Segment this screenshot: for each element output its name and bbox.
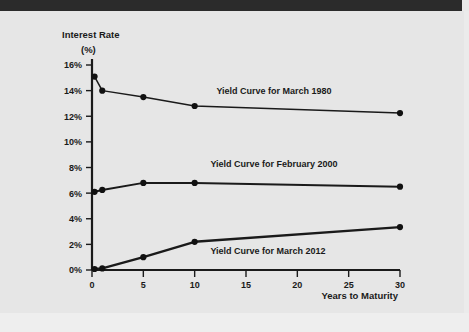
x-axis-tick-labels: 051015202530 — [89, 280, 405, 290]
y-tick-label: 16% — [64, 60, 82, 70]
x-tick-label: 5 — [141, 280, 146, 290]
y-tick-label: 0% — [69, 265, 82, 275]
y-tick-label: 8% — [69, 163, 82, 173]
top-decorative-bar — [0, 0, 462, 11]
series-annotations: Yield Curve for March 1980Yield Curve fo… — [210, 86, 337, 256]
y-tick-label: 14% — [64, 86, 82, 96]
series-line — [95, 183, 400, 192]
y-tick-label: 2% — [69, 240, 82, 250]
yield-curve-chart: Interest Rate (%) 0%2%4%6%8%10%12%14%16%… — [0, 11, 464, 313]
data-point-marker — [91, 73, 97, 79]
x-tick-label: 10 — [190, 280, 200, 290]
data-point-marker — [140, 180, 146, 186]
y-tick-label: 12% — [64, 112, 82, 122]
series-annotation-label: Yield Curve for March 1980 — [216, 86, 331, 96]
data-point-marker — [397, 110, 403, 116]
data-point-marker — [91, 266, 97, 272]
y-axis-title-line1: Interest Rate — [62, 29, 120, 40]
plot-area: Interest Rate (%) 0%2%4%6%8%10%12%14%16%… — [0, 11, 464, 313]
x-tick-label: 15 — [241, 280, 251, 290]
chart-figure: Interest Rate (%) 0%2%4%6%8%10%12%14%16%… — [0, 0, 469, 332]
data-point-marker — [397, 224, 403, 230]
data-point-marker — [140, 254, 146, 260]
x-tick-label: 20 — [292, 280, 302, 290]
series-annotation-label: Yield Curve for February 2000 — [210, 159, 337, 169]
right-margin-strip — [464, 11, 469, 313]
x-axis-title: Years to Maturity — [321, 290, 398, 301]
series-markers — [91, 73, 403, 272]
top-bar-tail — [462, 0, 469, 11]
data-point-marker — [192, 103, 198, 109]
bottom-margin-strip — [0, 313, 469, 332]
y-axis-tick-labels: 0%2%4%6%8%10%12%14%16% — [64, 60, 82, 275]
x-tick-label: 30 — [395, 280, 405, 290]
data-point-marker — [99, 265, 105, 271]
data-point-marker — [397, 184, 403, 190]
data-point-marker — [192, 239, 198, 245]
y-tick-label: 10% — [64, 137, 82, 147]
y-tick-label: 4% — [69, 214, 82, 224]
data-point-marker — [192, 180, 198, 186]
x-tick-label: 25 — [344, 280, 354, 290]
series-lines — [95, 77, 400, 269]
data-point-marker — [99, 88, 105, 94]
x-tick-label: 0 — [89, 280, 94, 290]
data-point-marker — [99, 187, 105, 193]
data-point-marker — [140, 94, 146, 100]
series-annotation-label: Yield Curve for March 2012 — [210, 246, 325, 256]
y-axis-title-line2: (%) — [81, 44, 96, 55]
data-point-marker — [91, 189, 97, 195]
y-tick-label: 6% — [69, 189, 82, 199]
